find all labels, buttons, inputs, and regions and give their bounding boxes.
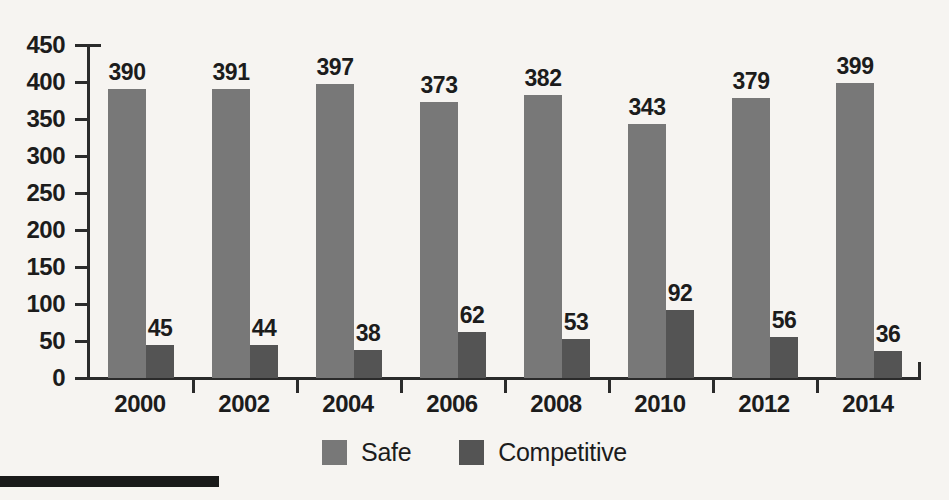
bar-competitive-2012 — [770, 337, 798, 378]
y-axis-tick-label: 100 — [26, 290, 65, 318]
legend-item-safe: Safe — [322, 438, 411, 467]
y-axis-tick-label: 0 — [52, 364, 65, 392]
y-axis-tick-label: 350 — [26, 105, 65, 133]
bar-value-label: 343 — [629, 94, 666, 121]
bar-competitive-2000 — [146, 345, 174, 378]
bar-safe-2014 — [836, 83, 874, 378]
bar-value-label: 92 — [668, 280, 693, 307]
bar-value-label: 373 — [421, 72, 458, 99]
y-axis-tick — [75, 118, 88, 121]
x-axis-tick — [608, 379, 611, 393]
x-axis-label-2000: 2000 — [114, 390, 165, 418]
bar-chart: 050100150200250300350400450 390453914439… — [0, 0, 949, 500]
plot-area: 3904539144397383736238253343923795639936 — [88, 45, 920, 378]
x-axis-label-2006: 2006 — [426, 390, 477, 418]
bar-value-label: 38 — [356, 320, 381, 347]
y-axis-tick-label: 200 — [26, 216, 65, 244]
bar-value-label: 382 — [525, 65, 562, 92]
bar-competitive-2002 — [250, 345, 278, 378]
bar-safe-2000 — [108, 89, 146, 378]
legend-label: Competitive — [498, 438, 627, 467]
y-axis-tick — [75, 44, 88, 47]
x-axis-label-2008: 2008 — [530, 390, 581, 418]
bar-value-label: 56 — [772, 307, 797, 334]
bar-safe-2012 — [732, 98, 770, 378]
page-rule — [0, 476, 219, 487]
y-axis-tick — [75, 303, 88, 306]
x-axis-label-2002: 2002 — [218, 390, 269, 418]
legend-swatch-icon — [459, 440, 484, 465]
y-axis-tick-label: 400 — [26, 68, 65, 96]
bar-value-label: 44 — [252, 315, 277, 342]
legend-label: Safe — [361, 438, 411, 467]
bar-value-label: 399 — [837, 53, 874, 80]
bar-value-label: 62 — [460, 302, 485, 329]
x-axis-label-2012: 2012 — [738, 390, 789, 418]
legend-item-competitive: Competitive — [459, 438, 627, 467]
x-axis-tick — [712, 379, 715, 393]
bar-value-label: 397 — [317, 54, 354, 81]
bar-safe-2002 — [212, 89, 250, 378]
x-axis-label-2014: 2014 — [842, 390, 893, 418]
bar-safe-2004 — [316, 84, 354, 378]
y-axis-tick — [75, 266, 88, 269]
bar-safe-2010 — [628, 124, 666, 378]
y-axis-tick — [75, 229, 88, 232]
y-axis-tick — [75, 155, 88, 158]
bar-competitive-2010 — [666, 310, 694, 378]
legend-swatch-icon — [322, 440, 347, 465]
bar-value-label: 45 — [148, 315, 173, 342]
bar-value-label: 390 — [109, 59, 146, 86]
x-axis-tick — [400, 379, 403, 393]
bar-value-label: 36 — [876, 321, 901, 348]
bar-safe-2006 — [420, 102, 458, 378]
bar-safe-2008 — [524, 95, 562, 378]
bar-value-label: 53 — [564, 309, 589, 336]
x-axis-label-2010: 2010 — [634, 390, 685, 418]
y-axis-tick-label: 50 — [39, 327, 65, 355]
y-axis-tick — [75, 192, 88, 195]
y-axis-tick-label: 300 — [26, 142, 65, 170]
x-axis-tick — [816, 379, 819, 393]
bar-competitive-2004 — [354, 350, 382, 378]
y-axis-tick — [75, 81, 88, 84]
bar-value-label: 391 — [213, 59, 250, 86]
x-axis-label-2004: 2004 — [322, 390, 373, 418]
chart-legend: SafeCompetitive — [0, 438, 949, 467]
y-axis-tick-label: 150 — [26, 253, 65, 281]
x-axis-tick — [296, 379, 299, 393]
y-axis-tick-label: 450 — [26, 31, 65, 59]
bar-competitive-2014 — [874, 351, 902, 378]
bar-value-label: 379 — [733, 68, 770, 95]
x-axis-tick — [504, 379, 507, 393]
bar-competitive-2006 — [458, 332, 486, 378]
y-axis-tick — [75, 340, 88, 343]
y-axis-tick — [75, 377, 88, 380]
x-axis-tick — [192, 379, 195, 393]
bar-competitive-2008 — [562, 339, 590, 378]
y-axis-tick-label: 250 — [26, 179, 65, 207]
